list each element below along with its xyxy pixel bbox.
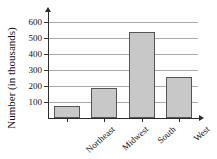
gridline xyxy=(48,38,198,39)
y-axis-tick xyxy=(44,70,49,71)
y-axis-tick xyxy=(44,38,49,39)
bar-west xyxy=(166,77,192,118)
y-axis-tick xyxy=(44,86,49,87)
x-axis-label-midwest: Midwest xyxy=(120,124,150,153)
x-axis-tick xyxy=(179,118,180,122)
bar-chart: Number (in thousands) 100200300400500600… xyxy=(0,0,217,159)
y-axis-arrow-icon xyxy=(45,7,51,12)
x-axis-arrow-icon xyxy=(199,115,204,121)
y-axis-tick xyxy=(44,102,49,103)
y-axis-title: Number (in thousands) xyxy=(4,8,18,148)
x-axis-tick xyxy=(67,118,68,122)
bar-northeast xyxy=(54,106,80,118)
chart-title-remnant xyxy=(60,0,210,1)
x-axis-label-south: South xyxy=(155,124,177,145)
gridline xyxy=(48,54,198,55)
y-axis-tick xyxy=(44,22,49,23)
x-axis-line xyxy=(48,118,200,119)
x-axis-tick xyxy=(104,118,105,122)
y-axis-tick-label: 400 xyxy=(29,50,43,59)
gridline xyxy=(48,22,198,23)
x-axis-label-northeast: Northeast xyxy=(84,124,117,155)
plot-area: 100200300400500600 xyxy=(48,14,198,118)
y-axis-tick-label: 300 xyxy=(29,66,43,75)
gridline xyxy=(48,70,198,71)
y-axis-tick-label: 100 xyxy=(29,98,43,107)
bar-south xyxy=(129,32,155,118)
x-axis-label-west: West xyxy=(192,124,212,143)
y-axis-tick-label: 600 xyxy=(29,18,43,27)
bar-midwest xyxy=(91,88,117,118)
y-axis-tick-label: 200 xyxy=(29,82,43,91)
x-axis-tick xyxy=(142,118,143,122)
y-axis-tick xyxy=(44,54,49,55)
y-axis-tick-label: 500 xyxy=(29,34,43,43)
